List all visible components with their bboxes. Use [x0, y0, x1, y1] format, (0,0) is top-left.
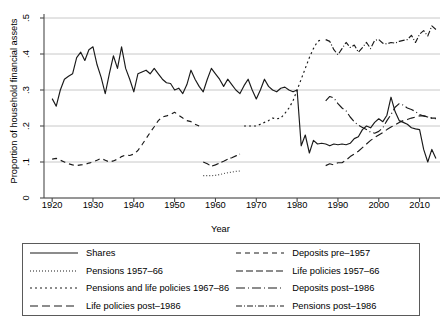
- x-tick-label-6: 1980: [277, 200, 317, 210]
- legend-swatch-icon: [29, 248, 79, 258]
- series-line-pensions-1957-66: [203, 171, 240, 176]
- data-series-layer: [52, 26, 436, 176]
- x-axis-tick-labels: 1920193019401950196019701980199020002010: [0, 200, 441, 214]
- legend-label: Life policies post–1986: [86, 301, 181, 311]
- x-tick-label-4: 1960: [195, 200, 235, 210]
- legend-swatch-icon: [29, 283, 79, 293]
- y-axis-title: Proportion of household financial assets: [9, 3, 19, 199]
- legend-item-6[interactable]: Life policies post–1986: [23, 297, 229, 315]
- x-tick-label-2: 1940: [114, 200, 154, 210]
- y-tick-label-3: .3: [20, 78, 32, 102]
- x-tick-label-0: 1920: [32, 200, 72, 210]
- x-tick-label-3: 1950: [155, 200, 195, 210]
- series-line-deposits-pre-1957: [52, 112, 199, 165]
- legend-swatch-icon: [29, 266, 79, 276]
- series-line-pensions-post-1986: [326, 26, 436, 55]
- x-tick-label-5: 1970: [236, 200, 276, 210]
- legend-swatch-icon: [235, 266, 285, 276]
- x-tick-label-1: 1930: [73, 200, 113, 210]
- series-line-pensions-and-life-policies-1967-86: [244, 40, 322, 126]
- legend-item-1[interactable]: Deposits pre–1957: [229, 244, 419, 262]
- legend-swatch-icon: [235, 248, 285, 258]
- legend-label: Deposits post–1986: [292, 283, 374, 293]
- legend-label: Shares: [86, 248, 115, 258]
- legend-label: Life policies 1957–66: [292, 266, 379, 276]
- series-line-shares: [52, 47, 436, 162]
- legend-item-7[interactable]: Pensions post–1986: [229, 297, 419, 315]
- legend-label: Deposits pre–1957: [292, 248, 370, 258]
- legend-swatch-icon: [235, 283, 285, 293]
- legend-item-3[interactable]: Life policies 1957–66: [229, 262, 419, 280]
- legend-label: Pensions post–1986: [292, 301, 376, 311]
- grid-lines: [44, 18, 440, 198]
- series-line-deposits-post-1986: [326, 96, 436, 133]
- x-axis-title: Year: [0, 224, 441, 234]
- legend-swatch-icon: [235, 301, 285, 311]
- series-line-life-policies-1957-66: [203, 154, 240, 166]
- y-tick-label-4: .4: [20, 42, 32, 66]
- chart-canvas: [0, 0, 441, 212]
- legend-item-5[interactable]: Deposits post–1986: [229, 280, 419, 298]
- x-tick-label-7: 1990: [318, 200, 358, 210]
- legend-item-0[interactable]: Shares: [23, 244, 229, 262]
- series-line-life-policies-post-1986: [326, 116, 436, 166]
- y-tick-label-5: .5: [20, 6, 32, 30]
- axis-lines: [40, 14, 440, 202]
- chart-figure: Proportion of household financial assets…: [0, 0, 441, 326]
- y-tick-label-1: .1: [20, 150, 32, 174]
- legend-label: Pensions and life policies 1967–86: [86, 283, 229, 293]
- legend-item-2[interactable]: Pensions 1957–66: [23, 262, 229, 280]
- legend-item-4[interactable]: Pensions and life policies 1967–86: [23, 280, 229, 298]
- x-tick-label-9: 2010: [400, 200, 440, 210]
- y-tick-label-2: .2: [20, 114, 32, 138]
- legend-swatch-icon: [29, 301, 79, 311]
- plot-area: Proportion of household financial assets…: [0, 0, 441, 212]
- chart-legend: SharesDeposits pre–1957Pensions 1957–66L…: [22, 243, 420, 316]
- x-tick-label-8: 2000: [359, 200, 399, 210]
- legend-label: Pensions 1957–66: [86, 266, 163, 276]
